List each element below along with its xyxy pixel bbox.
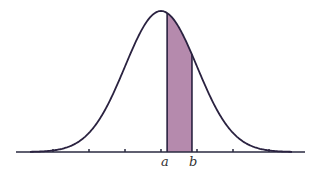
label-b: b bbox=[189, 154, 197, 169]
shaded-area bbox=[167, 13, 192, 152]
normal-curve bbox=[30, 11, 292, 152]
label-a: a bbox=[161, 154, 169, 169]
normal-distribution-chart: a b bbox=[0, 0, 313, 174]
